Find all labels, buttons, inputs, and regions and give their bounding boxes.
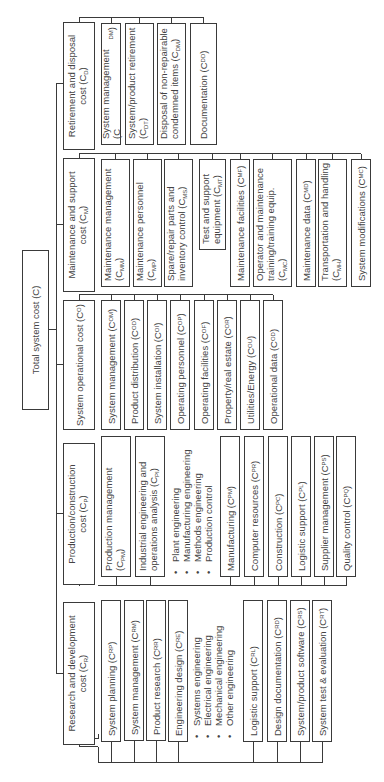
subscript: MT: [217, 178, 223, 187]
connector: [111, 18, 112, 23]
connector: [79, 154, 80, 158]
bullet-item: Manufacturing engineering: [181, 450, 192, 575]
category-label-line2: cost (C: [77, 662, 88, 692]
connector: [250, 295, 251, 300]
connector: [79, 17, 98, 18]
connector: [56, 513, 63, 514]
child-label-line2: condemned items (C: [169, 51, 180, 139]
subscript: OM: [106, 312, 117, 322]
subscript: O: [74, 307, 85, 312]
connector: [98, 762, 322, 763]
child-label: Test and support: [200, 174, 211, 244]
subscript: RT: [317, 611, 328, 619]
child-label: Computer resources (C: [249, 472, 260, 571]
child-rd-logistic-support: Logistic support (CRL): [243, 600, 263, 742]
child-o-operational-data: Operational data (COD): [263, 300, 283, 430]
connector: [301, 577, 302, 586]
subscript: RS: [295, 610, 306, 618]
root-node-total-system-cost: Total system cost (C): [22, 250, 49, 410]
child-label: Disposal of non-repairable: [158, 28, 169, 139]
child-label: Operating facilities (C: [199, 333, 210, 424]
child-o-utilities-energy: Utilities/Energy (COU): [240, 300, 260, 430]
child-p-industrial-engineering: Industrial engineering and operations an…: [135, 436, 165, 577]
connector: [157, 295, 158, 300]
connector: [361, 154, 362, 159]
child-m-test-support-equipment: Test and support equipment (CMT): [199, 159, 226, 250]
connector: [98, 294, 273, 295]
child-o-operating-personnel: Operating personnel (COP): [170, 300, 190, 430]
child-label: System management (C: [106, 322, 117, 424]
subscript: R: [83, 658, 89, 662]
child-m-maintenance-personnel: Maintenance personnel (CMP): [133, 159, 162, 287]
child-label: Maintenance data (C: [301, 193, 312, 281]
category-label: System operational cost (C: [74, 312, 85, 426]
connector: [56, 224, 63, 225]
connector: [98, 153, 361, 154]
connector: [79, 746, 98, 747]
child-label: Supplier management (C: [319, 465, 330, 571]
subscript: M: [83, 209, 89, 214]
subscript: PM: [225, 489, 236, 498]
child-label: Product research (C: [151, 650, 162, 735]
bullet-item: Mechanical engineering: [213, 626, 224, 738]
child-label: Production management: [103, 467, 114, 571]
child-label-line2: operations analysis (C: [148, 477, 159, 571]
child-o-system-management: System management (COM): [101, 300, 121, 430]
child-label: Spare/repair parts and: [165, 186, 176, 281]
bullet-item: Plant engineering: [170, 450, 181, 575]
child-label: Maintenance management: [102, 169, 113, 282]
subscript: DD: [198, 54, 209, 63]
subscript: PS: [319, 457, 330, 465]
connector: [79, 153, 98, 154]
connector: [278, 577, 279, 586]
bullet-item: Electrical engineering: [202, 626, 213, 738]
subscript: OR: [222, 319, 233, 328]
child-label-line2: training/training equip.: [265, 188, 276, 281]
connector: [98, 734, 99, 739]
child-p-construction: Construction (CPC): [268, 436, 288, 577]
child-label-line2: inventory control (C: [176, 199, 187, 281]
child-p-logistic-support: Logistic support (CPL): [291, 436, 311, 577]
industrial-engineering-bullets: Plant engineering Manufacturing engineer…: [170, 450, 214, 575]
connector: [230, 577, 231, 586]
child-rd-system-test-evaluation: System test & evaluation (CRT): [312, 600, 332, 742]
subscript: MP: [151, 262, 157, 271]
connector: [56, 673, 63, 674]
category-system-operational: System operational cost (CO): [63, 300, 95, 430]
child-label: Property/real estate (C: [222, 328, 233, 424]
connector: [79, 295, 80, 300]
subscript: PL: [296, 484, 307, 491]
subscript: OI: [152, 326, 163, 332]
child-label-line2: (C: [114, 561, 125, 571]
child-o-product-distribution: Product distribution (COD): [124, 300, 144, 430]
connector: [253, 742, 254, 763]
child-o-property-real-estate: Property/real estate (COR): [217, 300, 237, 430]
subscript: D: [83, 70, 89, 74]
connector: [98, 747, 99, 763]
child-m-maintenance-data: Maintenance data (CMD): [296, 159, 316, 287]
child-o-system-installation: System installation (COI): [147, 300, 167, 430]
connector: [204, 295, 205, 300]
connector: [116, 577, 117, 586]
connector: [332, 154, 333, 159]
connector: [203, 18, 204, 23]
child-p-production-management: Production management (CPM): [101, 436, 131, 577]
connector: [79, 18, 80, 22]
connector: [180, 295, 181, 300]
child-label: Maintenance facilities (C: [235, 178, 246, 282]
connector: [272, 154, 273, 159]
engineering-design-bullets: Systems engineering Electrical engineeri…: [191, 626, 235, 738]
connector: [306, 154, 307, 159]
category-label-line2: cost (C: [77, 503, 88, 533]
connector: [56, 84, 57, 674]
child-rd-system-planning: System planning (CRP): [101, 600, 121, 742]
child-m-system-modifications: System modifications (CMC): [351, 159, 371, 287]
child-rd-system-management: System management (CRM): [124, 600, 144, 741]
connector: [56, 83, 63, 84]
child-label: Logistic support (C: [296, 492, 307, 571]
connector: [56, 364, 63, 365]
bullet-item: Methods engineering: [192, 450, 203, 575]
subscript: OD: [129, 321, 140, 330]
child-m-maintenance-facilities: Maintenance facilities (CMF): [230, 159, 250, 287]
child-label: Operator and maintenance: [254, 168, 265, 281]
